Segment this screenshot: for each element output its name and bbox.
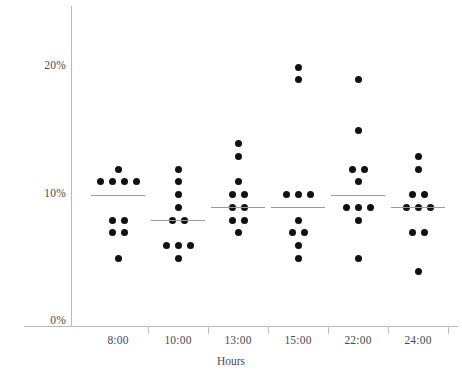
data-point (115, 166, 122, 173)
data-point (235, 229, 242, 236)
data-point (109, 178, 116, 185)
data-point (409, 191, 416, 198)
data-point (361, 166, 368, 173)
data-point (415, 153, 422, 160)
dot-plot-chart: 0%10%20% 8:0010:0013:0015:0022:0024:00 H… (0, 0, 462, 378)
x-axis-tick-mark (448, 326, 449, 334)
x-axis-tick-label[interactable]: 8:00 (87, 334, 149, 346)
x-axis-title: Hours (0, 355, 462, 367)
data-point (241, 191, 248, 198)
data-point (343, 204, 350, 211)
data-point (109, 217, 116, 224)
data-point (235, 178, 242, 185)
data-point (241, 217, 248, 224)
data-point (301, 229, 308, 236)
data-point (295, 217, 302, 224)
data-point (175, 255, 182, 262)
data-point (163, 242, 170, 249)
data-point (175, 191, 182, 198)
data-point (283, 191, 290, 198)
data-point (409, 229, 416, 236)
data-point (97, 178, 104, 185)
mean-line (151, 220, 205, 221)
data-point (355, 217, 362, 224)
x-axis-tick-mark (208, 326, 209, 334)
data-point (421, 229, 428, 236)
data-point (229, 191, 236, 198)
data-point (229, 217, 236, 224)
x-axis-line (24, 326, 458, 327)
data-point (415, 268, 422, 275)
data-point (115, 255, 122, 262)
data-point (367, 204, 374, 211)
y-axis-tick-label: 0% (20, 314, 66, 326)
x-axis-tick-mark (388, 326, 389, 334)
mean-line (391, 207, 445, 208)
x-axis-tick-label[interactable]: 13:00 (207, 334, 269, 346)
data-point (109, 229, 116, 236)
data-point (121, 217, 128, 224)
y-axis-tick-label: 20% (20, 59, 66, 71)
plot-area: 0%10%20% 8:0010:0013:0015:0022:0024:00 H… (0, 0, 462, 378)
data-point (175, 242, 182, 249)
y-axis-line (71, 6, 72, 326)
y-axis-tick-label: 10% (20, 187, 66, 199)
data-point (421, 191, 428, 198)
mean-line (331, 195, 385, 196)
data-point (415, 166, 422, 173)
data-point (235, 140, 242, 147)
mean-line (211, 207, 265, 208)
data-point (121, 178, 128, 185)
data-point (289, 229, 296, 236)
data-point (235, 153, 242, 160)
data-point (355, 178, 362, 185)
x-axis-tick-label[interactable]: 10:00 (147, 334, 209, 346)
data-point (295, 76, 302, 83)
x-axis-tick-mark (268, 326, 269, 334)
mean-line (91, 195, 145, 196)
x-axis-tick-label[interactable]: 15:00 (267, 334, 329, 346)
data-point (355, 76, 362, 83)
x-axis-tick-label[interactable]: 24:00 (387, 334, 449, 346)
data-point (355, 127, 362, 134)
x-axis-tick-label[interactable]: 22:00 (327, 334, 389, 346)
data-point (295, 255, 302, 262)
data-point (121, 229, 128, 236)
mean-line (271, 207, 325, 208)
data-point (175, 166, 182, 173)
x-axis-tick-mark (148, 326, 149, 334)
data-point (295, 242, 302, 249)
x-axis-tick-mark (328, 326, 329, 334)
data-point (349, 166, 356, 173)
data-point (175, 178, 182, 185)
data-point (307, 191, 314, 198)
data-point (295, 191, 302, 198)
data-point (355, 255, 362, 262)
data-point (133, 178, 140, 185)
data-point (175, 204, 182, 211)
data-point (295, 64, 302, 71)
data-point (187, 242, 194, 249)
data-point (355, 204, 362, 211)
